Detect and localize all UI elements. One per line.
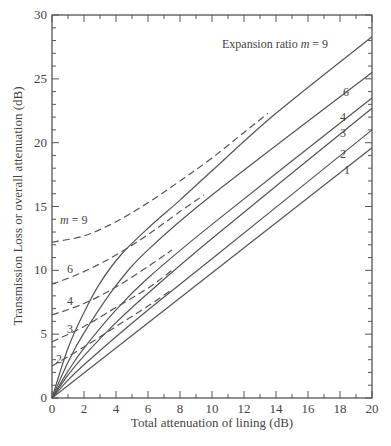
x-tick-label: 2 bbox=[81, 401, 88, 416]
curve-m-1 bbox=[52, 148, 372, 398]
x-tick-label: 12 bbox=[238, 401, 251, 416]
x-tick-label: 0 bbox=[49, 401, 56, 416]
label-left-4: 4 bbox=[67, 294, 73, 308]
x-tick-label: 20 bbox=[366, 401, 379, 416]
curve-m-6 bbox=[52, 72, 372, 398]
label-left-6: 6 bbox=[67, 262, 73, 276]
curve-m-9 bbox=[52, 37, 372, 398]
y-tick-label: 5 bbox=[41, 326, 48, 341]
label-right-6: 6 bbox=[343, 85, 349, 99]
y-tick-label: 20 bbox=[34, 135, 47, 150]
chart: 02468101214161820 051015202530 Total att… bbox=[0, 0, 391, 446]
y-tick-label: 10 bbox=[34, 262, 47, 277]
x-tick-label: 8 bbox=[177, 401, 184, 416]
series-group bbox=[52, 37, 372, 398]
label-left-3: 3 bbox=[67, 322, 73, 336]
x-axis-title: Total attenuation of lining (dB) bbox=[131, 415, 293, 430]
y-tick-label: 15 bbox=[34, 199, 47, 214]
x-tick-label: 4 bbox=[113, 401, 120, 416]
label-right-2: 2 bbox=[340, 147, 346, 161]
label-left-2: 2 bbox=[56, 352, 62, 366]
label-right-3: 3 bbox=[340, 126, 346, 140]
x-tick-label: 18 bbox=[334, 401, 347, 416]
annotation-expansion-ratio: Expansion ratio m = 9 bbox=[222, 37, 328, 51]
y-axis-title: Transmission Loss or overall attenuation… bbox=[10, 87, 25, 326]
y-tick-label: 25 bbox=[34, 71, 47, 86]
label-right-4: 4 bbox=[340, 110, 346, 124]
plot-frame bbox=[52, 15, 372, 398]
curve-m-4 bbox=[52, 98, 372, 398]
x-tick-label: 14 bbox=[270, 401, 284, 416]
x-tick-label: 16 bbox=[302, 401, 316, 416]
x-tick-label: 6 bbox=[145, 401, 152, 416]
x-tick-label: 10 bbox=[206, 401, 219, 416]
y-tick-labels: 051015202530 bbox=[34, 7, 47, 405]
axis-ticks bbox=[52, 15, 372, 398]
label-right-1: 1 bbox=[344, 163, 350, 177]
label-left-m9: m = 9 bbox=[60, 213, 87, 227]
y-tick-label: 30 bbox=[34, 7, 47, 22]
y-tick-label: 0 bbox=[41, 390, 48, 405]
x-tick-labels: 02468101214161820 bbox=[49, 401, 379, 416]
curve-m-3 bbox=[52, 108, 372, 398]
